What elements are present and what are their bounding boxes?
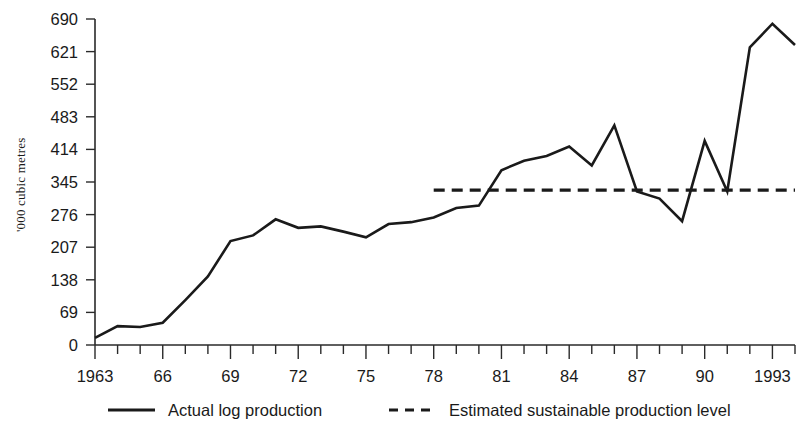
y-tick-label: 552: [50, 75, 78, 93]
y-tick-label: 414: [50, 140, 78, 158]
x-tick-label: 87: [628, 367, 646, 385]
x-axis: [95, 345, 795, 359]
y-axis-title: '000 cubic metres: [13, 137, 28, 232]
x-tick-label: 1993: [754, 367, 791, 385]
legend-label-estimated-sustainable-production-level: Estimated sustainable production level: [449, 401, 731, 419]
y-tick-label: 0: [69, 336, 78, 354]
series-actual-log-production: [95, 24, 795, 338]
chart-legend: Actual log production Estimated sustaina…: [108, 401, 731, 419]
chart-svg: '000 cubic metres 0691382072763454144835…: [0, 0, 808, 424]
legend-item-estimated-sustainable-production-level: Estimated sustainable production level: [389, 401, 731, 419]
legend-label-actual-log-production: Actual log production: [168, 401, 322, 419]
legend-item-actual-log-production: Actual log production: [108, 401, 322, 419]
x-tick-label: 69: [221, 367, 239, 385]
y-tick-label: 345: [50, 173, 78, 191]
chart-figure: '000 cubic metres 0691382072763454144835…: [0, 0, 808, 424]
x-tick-label: 1963: [77, 367, 114, 385]
y-axis-tick-labels: 069138207276345414483552621690: [50, 10, 78, 354]
y-tick-label: 483: [50, 108, 78, 126]
x-tick-label: 66: [154, 367, 172, 385]
y-tick-label: 138: [50, 271, 78, 289]
x-tick-label: 81: [492, 367, 510, 385]
x-tick-label: 75: [357, 367, 375, 385]
x-axis-tick-labels: 19636669727578818487901993: [77, 367, 791, 385]
y-axis-ticks: [86, 19, 95, 345]
y-tick-label: 276: [50, 206, 78, 224]
x-tick-label: 78: [425, 367, 443, 385]
x-axis-ticks: [95, 345, 795, 359]
y-tick-label: 621: [50, 43, 78, 61]
y-axis: [86, 19, 95, 345]
x-tick-label: 72: [289, 367, 307, 385]
y-tick-label: 690: [50, 10, 78, 28]
y-axis-title-text: '000 cubic metres: [13, 137, 28, 232]
y-tick-label: 207: [50, 238, 78, 256]
x-tick-label: 84: [560, 367, 578, 385]
y-tick-label: 69: [60, 303, 78, 321]
x-tick-label: 90: [695, 367, 713, 385]
